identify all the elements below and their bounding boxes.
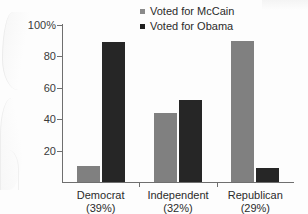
bar-republican-obama [256, 168, 279, 182]
scan-artifact [4, 150, 19, 190]
x-axis-category-label: Independent(32%) [139, 189, 216, 214]
legend-item: Voted for Obama [140, 19, 234, 33]
y-axis-tick-label: 100% [28, 20, 56, 31]
plot-area [62, 25, 294, 182]
bar-democrat-obama [102, 42, 125, 182]
bar-republican-mccain [231, 41, 254, 182]
x-axis-tick [139, 182, 140, 187]
legend-swatch-icon [140, 24, 145, 29]
x-axis-tick [217, 182, 218, 187]
x-axis-line [62, 182, 294, 183]
y-axis-tick-label: 20 [44, 146, 56, 157]
y-axis-tick-label: 40 [44, 114, 56, 125]
x-axis-category-label: Republican(29%) [217, 189, 294, 214]
category-share: (29%) [217, 202, 294, 214]
category-name: Democrat [77, 189, 125, 201]
category-share: (32%) [139, 202, 216, 214]
legend-label: Voted for McCain [150, 5, 234, 17]
category-name: Republican [228, 189, 283, 201]
category-share: (39%) [62, 202, 139, 214]
bar-independent-obama [179, 100, 202, 182]
legend-item: Voted for McCain [140, 4, 234, 18]
chart-legend: Voted for McCainVoted for Obama [140, 4, 234, 34]
scan-artifact [2, 12, 29, 90]
y-axis-tick-label: 60 [44, 83, 56, 94]
category-name: Independent [147, 189, 208, 201]
x-axis-category-label: Democrat(39%) [62, 189, 139, 214]
legend-label: Voted for Obama [150, 20, 233, 32]
scan-artifact [0, 98, 23, 190]
bar-chart: 100%80604020 Democrat(39%)Independent(32… [0, 0, 308, 214]
bar-independent-mccain [154, 113, 177, 182]
y-axis-tick-label: 80 [44, 51, 56, 62]
bar-democrat-mccain [77, 166, 100, 182]
legend-swatch-icon [140, 9, 145, 14]
scan-artifact [262, 0, 308, 10]
